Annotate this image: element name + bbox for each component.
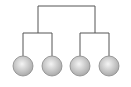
leaf-node-1: [13, 56, 33, 76]
left-branch-connector: [23, 33, 52, 56]
leaf-node-3: [70, 56, 90, 76]
leaf-node-4: [99, 56, 119, 76]
root-connector: [38, 6, 95, 33]
tree-connectors: [23, 6, 109, 56]
tree-diagram: [0, 0, 131, 87]
leaf-node-2: [42, 56, 62, 76]
right-branch-connector: [80, 33, 109, 56]
